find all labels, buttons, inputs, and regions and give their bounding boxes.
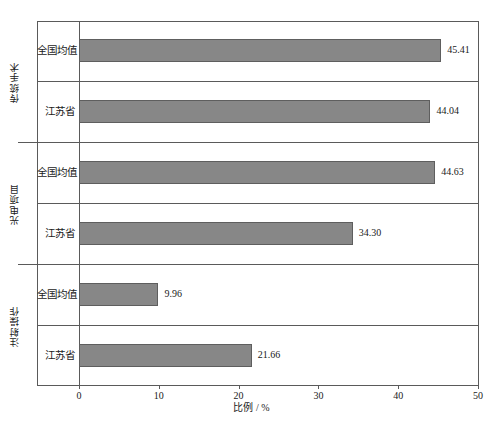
x-tick bbox=[478, 385, 479, 389]
bar[interactable] bbox=[79, 39, 441, 62]
bar[interactable] bbox=[79, 161, 435, 184]
category-label-jiangsu: 江苏省 bbox=[37, 350, 75, 362]
category-separator bbox=[37, 325, 478, 326]
group-label-injection-operation: 注射操作 bbox=[10, 274, 24, 379]
bar-chart: 传统手术 光电项目 注射操作 全国均值 江苏省 全国均值 江苏省 全国均值 江苏… bbox=[0, 0, 503, 421]
bar-value-label: 44.04 bbox=[436, 105, 459, 117]
category-label-national-average: 全国均值 bbox=[37, 45, 75, 57]
group-separator bbox=[18, 264, 478, 265]
category-label-national-average: 全国均值 bbox=[37, 289, 75, 301]
bar[interactable] bbox=[79, 283, 158, 306]
category-label-national-average: 全国均值 bbox=[37, 167, 75, 179]
bar-value-label: 21.66 bbox=[258, 349, 281, 361]
category-label-jiangsu: 江苏省 bbox=[37, 228, 75, 240]
x-axis-line bbox=[37, 385, 478, 386]
bar-value-label: 9.96 bbox=[164, 288, 182, 300]
group-label-traditional-surgery: 传统手术 bbox=[10, 30, 24, 135]
bar[interactable] bbox=[79, 100, 430, 123]
x-tick-label: 10 bbox=[144, 390, 174, 402]
group-separator bbox=[18, 142, 478, 143]
group-label-photoelectric-project: 光电项目 bbox=[10, 152, 24, 257]
x-tick-label: 40 bbox=[383, 390, 413, 402]
x-tick bbox=[318, 385, 319, 389]
x-tick bbox=[79, 385, 80, 389]
x-axis-title: 比例 / % bbox=[0, 402, 503, 414]
bar[interactable] bbox=[79, 222, 353, 245]
bar-value-label: 44.63 bbox=[441, 166, 464, 178]
plot-right-edge bbox=[478, 21, 479, 386]
bar[interactable] bbox=[79, 344, 252, 367]
bar-value-label: 34.30 bbox=[359, 227, 382, 239]
x-tick-label: 30 bbox=[303, 390, 333, 402]
x-tick bbox=[398, 385, 399, 389]
x-tick-label: 0 bbox=[64, 390, 94, 402]
x-tick bbox=[159, 385, 160, 389]
bar-value-label: 45.41 bbox=[447, 44, 470, 56]
x-tick bbox=[239, 385, 240, 389]
category-label-jiangsu: 江苏省 bbox=[37, 106, 75, 118]
x-tick-label: 50 bbox=[463, 390, 493, 402]
category-separator bbox=[37, 81, 478, 82]
x-tick-label: 20 bbox=[224, 390, 254, 402]
category-separator bbox=[37, 203, 478, 204]
